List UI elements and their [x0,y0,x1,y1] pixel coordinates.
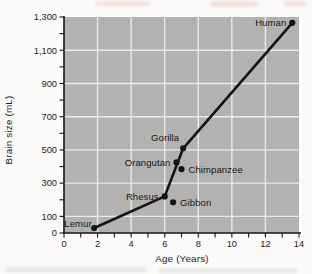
y-tick-label-300: 300 [41,178,57,188]
point-gibbon [170,199,176,205]
x-tick-label-0: 0 [61,239,66,249]
x-tick-label-4: 4 [129,239,134,249]
point-label-orangutan: Orangutan [125,157,171,168]
point-label-lemur: Lemur [64,218,91,229]
point-lemur [91,225,97,231]
point-label-gorilla: Gorilla [151,132,180,143]
point-label-chimpanzee: Chimpanzee [189,164,243,175]
point-chimpanzee [178,166,184,172]
y-tick-label-100: 100 [41,212,57,222]
x-tick-label-12: 12 [260,239,270,249]
point-orangutan [173,159,179,165]
y-axis-title: Brain size (mL) [3,96,14,165]
point-human [289,20,295,26]
brain-size-chart: 01003005007009001,1001,30002468101214Lem… [0,0,312,274]
x-tick-label-6: 6 [162,239,167,249]
point-label-gibbon: Gibbon [180,197,211,208]
y-tick-label-1300: 1,300 [34,12,57,22]
x-axis-title: Age (Years) [155,253,209,264]
x-tick-label-10: 10 [227,239,237,249]
point-label-human: Human [255,17,286,28]
figure-brain-size-vs-age: 01003005007009001,1001,30002468101214Lem… [0,0,312,274]
y-tick-label-0: 0 [52,228,57,238]
point-gorilla [180,145,186,151]
x-tick-label-8: 8 [196,239,201,249]
y-tick-label-500: 500 [41,145,57,155]
y-tick-label-700: 700 [41,112,57,122]
point-rhesus [162,193,168,199]
x-tick-label-2: 2 [95,239,100,249]
y-tick-label-1100: 1,100 [34,46,57,56]
point-label-rhesus: Rhesus [126,191,159,202]
y-tick-label-900: 900 [41,79,57,89]
x-tick-label-14: 14 [294,239,304,249]
